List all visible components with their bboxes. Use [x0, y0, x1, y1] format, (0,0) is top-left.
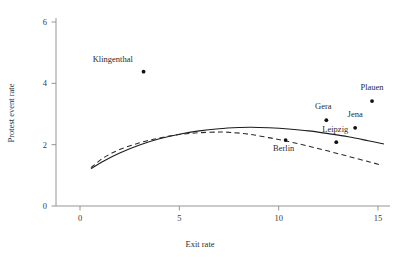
data-point-leipzig — [334, 140, 338, 144]
axes-group — [56, 18, 390, 206]
x-axis-tick-label: 0 — [78, 213, 82, 223]
data-point-label-leipzig: Leipzig — [322, 124, 349, 134]
x-axis-tick-label: 5 — [177, 213, 181, 223]
data-point-berlin — [284, 138, 288, 142]
protest-event-rate-scatter-chart: 0246051015 KlingenthalBerlinLeipzigGeraJ… — [0, 0, 400, 257]
y-axis-title: Protest event rate — [6, 83, 16, 142]
y-axis-tick-label: 0 — [43, 201, 47, 211]
data-point-labels-group: KlingenthalBerlinLeipzigGeraJenaPlauen — [93, 54, 385, 154]
data-point-jena — [353, 126, 357, 130]
data-point-label-gera: Gera — [315, 101, 332, 111]
data-point-plauen — [370, 99, 374, 103]
data-point-label-plauen: Plauen — [360, 82, 384, 92]
data-point-gera — [324, 118, 328, 122]
tick-labels-group: 0246051015 — [43, 17, 383, 223]
data-point-label-klingenthal: Klingenthal — [93, 54, 134, 64]
data-point-klingenthal — [142, 70, 146, 74]
fitted-curve-dashed — [91, 132, 382, 168]
data-point-label-berlin: Berlin — [273, 143, 295, 153]
chart-canvas: 0246051015 KlingenthalBerlinLeipzigGeraJ… — [0, 0, 400, 257]
y-axis-tick-label: 2 — [43, 140, 47, 150]
x-axis-tick-label: 10 — [274, 213, 283, 223]
y-axis-tick-label: 6 — [43, 17, 47, 27]
y-axis-tick-label: 4 — [43, 78, 48, 88]
tick-marks-group — [52, 22, 379, 211]
x-axis-title: Exit rate — [185, 239, 214, 249]
data-point-label-jena: Jena — [348, 109, 363, 119]
x-axis-tick-label: 15 — [374, 213, 383, 223]
